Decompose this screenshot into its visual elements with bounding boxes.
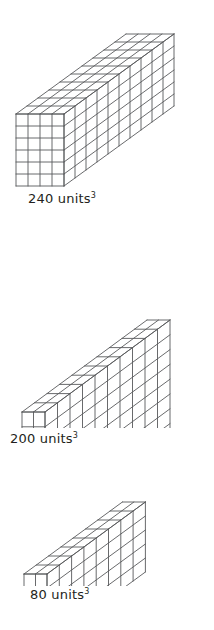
caption-200-exponent: 3: [73, 431, 78, 440]
caption-80-exponent: 3: [84, 587, 89, 596]
caption-200-unit: units: [40, 431, 73, 446]
rectangular-prism-240: [14, 6, 214, 194]
rectangular-prism-80: [22, 458, 194, 586]
caption-200: 200 units3: [10, 432, 78, 445]
prism-240-drawing: [14, 6, 214, 194]
caption-80: 80 units3: [30, 588, 90, 601]
caption-80-unit: units: [51, 587, 84, 602]
caption-240: 240 units3: [28, 192, 96, 205]
rectangular-prism-200: [20, 216, 214, 428]
caption-240-unit: units: [58, 191, 91, 206]
figure-page: 240 units3 200 units3 80 units3: [0, 0, 214, 630]
caption-80-number: 80: [30, 587, 47, 602]
caption-240-number: 240: [28, 191, 53, 206]
caption-240-exponent: 3: [91, 191, 96, 200]
prism-80-drawing: [22, 458, 194, 586]
prism-200-drawing: [20, 216, 214, 428]
caption-200-number: 200: [10, 431, 35, 446]
